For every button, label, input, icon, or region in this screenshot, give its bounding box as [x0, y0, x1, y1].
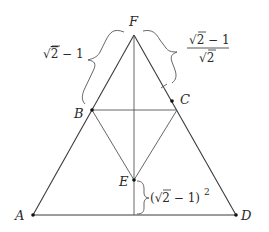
segment-BE	[92, 110, 134, 180]
label-D: D	[240, 208, 252, 223]
svg-text:√2 − 1: √2 − 1	[189, 33, 230, 47]
point-D	[234, 213, 238, 217]
point-B	[90, 108, 94, 112]
svg-text:√2 − 1: √2 − 1	[43, 47, 84, 61]
left-brace-label: √2 − 1	[43, 46, 84, 61]
left-brace	[82, 30, 124, 104]
label-B: B	[73, 106, 84, 121]
label-A: A	[14, 208, 24, 223]
label-C: C	[180, 92, 190, 107]
svg-text:(√2 − 1): (√2 − 1)	[150, 191, 200, 205]
geometry-diagram: F A D B C E √2 − 1 √2 − 1 √2 (√2 − 1) 2	[0, 0, 269, 232]
point-E	[132, 178, 136, 182]
label-E: E	[118, 174, 129, 189]
diagram-canvas: F A D B C E √2 − 1 √2 − 1 √2 (√2 − 1) 2	[0, 0, 269, 232]
svg-text:2: 2	[204, 187, 210, 197]
right-brace-label: √2 − 1 √2	[187, 32, 230, 65]
point-C	[170, 99, 174, 103]
right-brace	[143, 30, 177, 83]
bottom-brace	[137, 181, 149, 214]
bottom-brace-label: (√2 − 1) 2	[150, 187, 210, 205]
svg-text:√2: √2	[199, 51, 214, 65]
segment-FD	[134, 35, 236, 215]
point-A	[31, 213, 35, 217]
label-F: F	[128, 14, 139, 29]
segment-E-right	[134, 110, 177, 180]
